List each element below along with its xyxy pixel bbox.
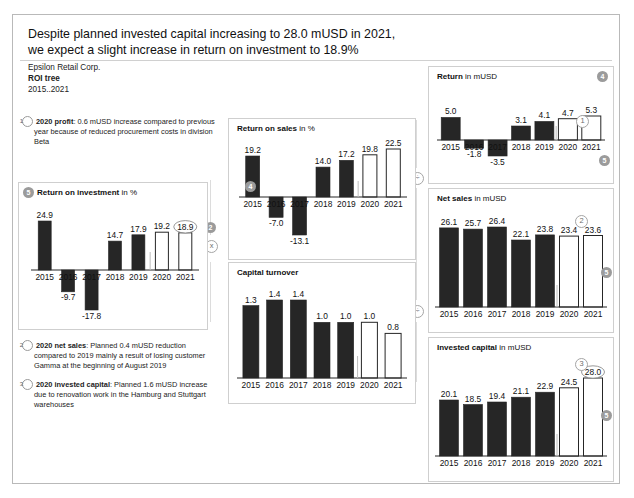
x-tick-2019: 2019 (337, 199, 356, 209)
value-label-2020: 4.7 (562, 108, 574, 118)
value-label-2018: 14.0 (315, 156, 332, 166)
bar-2020 (558, 119, 577, 140)
value-label-2018: 21.1 (513, 386, 530, 396)
value-label-2015: 5.0 (445, 106, 457, 116)
value-label-2019: 4.1 (539, 110, 551, 120)
x-tick-2021: 2021 (384, 199, 403, 209)
title-line-1: Despite planned invested capital increas… (28, 26, 528, 42)
chart-return-on-sales: Return on sales in % 19.2-7.0-13.114.017… (228, 118, 416, 260)
bar-2018 (512, 397, 531, 456)
marker-ref-net_sales: 5 (599, 155, 610, 166)
value-label-2016: -7.0 (269, 218, 284, 228)
bar-2019 (339, 160, 353, 197)
chart-return: Return in mUSD 4 5.0-1.8-3.53.14.14.75.3… (428, 66, 614, 184)
title-line-2: we expect a slight increase in return on… (28, 42, 528, 58)
value-label-2020: 23.4 (561, 225, 578, 235)
value-label-2021: 18.9 (177, 222, 194, 232)
x-tick-2019: 2019 (536, 309, 555, 319)
bar-2016 (267, 300, 283, 378)
x-tick-2020: 2020 (153, 272, 172, 282)
note-2-3-group: 22020 net sales: Planned 0.4 mUSD reduct… (22, 340, 220, 410)
x-tick-2016: 2016 (267, 199, 286, 209)
value-label-2016: 25.7 (465, 218, 482, 228)
x-tick-2017: 2017 (289, 380, 308, 390)
bar-2018 (314, 322, 330, 378)
value-label-2018: 1.0 (316, 311, 328, 321)
document-type: ROI tree (28, 73, 100, 84)
bar-2017 (488, 227, 507, 307)
bar-2015 (440, 228, 459, 307)
bar-chart-capital_turnover: 1.31.41.41.01.01.00.82015201620172018201… (229, 263, 415, 403)
bar-2018 (512, 240, 531, 307)
value-label-2016: 18.5 (465, 394, 482, 404)
chart-canvas-ct: 1.31.41.41.01.01.00.82015201620172018201… (229, 263, 415, 403)
x-tick-2016: 2016 (464, 309, 483, 319)
value-label-2020: 24.5 (561, 377, 578, 387)
bar-chart-net_sales: 26.125.726.422.123.823.423.6201520162017… (429, 189, 613, 332)
value-label-2019: 17.9 (130, 224, 147, 234)
subtitle-block: Epsilon Retail Corp. ROI tree 2015..2021 (28, 62, 100, 95)
x-tick-2016: 2016 (59, 272, 78, 282)
x-tick-2019: 2019 (129, 272, 148, 282)
marker-ref-net_sales_footnote: 2 (575, 215, 588, 228)
value-label-2021: 23.6 (585, 225, 602, 235)
x-tick-2017: 2017 (488, 142, 507, 152)
note-2-marker: 2 (22, 340, 33, 351)
value-label-2017: 26.4 (489, 216, 506, 226)
x-tick-2018: 2018 (512, 309, 531, 319)
x-tick-2016: 2016 (464, 458, 483, 468)
bar-2015 (441, 117, 460, 140)
value-label-2016: -9.7 (61, 292, 76, 302)
roi-tree-slide: Despite planned invested capital increas… (0, 0, 634, 498)
value-label-2018: 3.1 (515, 115, 527, 125)
bar-2020 (560, 236, 579, 307)
x-tick-2015: 2015 (35, 272, 54, 282)
chart-canvas-roi: 24.9-9.7-17.814.717.919.218.920152016201… (19, 183, 207, 329)
x-tick-2020: 2020 (360, 380, 379, 390)
value-label-2015: 19.2 (245, 145, 262, 155)
connector-sales-mid (416, 188, 417, 300)
x-tick-2018: 2018 (512, 458, 531, 468)
value-label-2020: 19.2 (154, 221, 171, 231)
x-tick-2019: 2019 (535, 142, 554, 152)
x-tick-2015: 2015 (440, 309, 459, 319)
value-label-2021: 28.0 (585, 367, 602, 377)
value-label-2019: 23.8 (537, 224, 554, 234)
bar-2016 (464, 405, 483, 457)
value-label-2017: 19.4 (489, 391, 506, 401)
bar-2015 (38, 221, 51, 270)
bar-2021 (385, 333, 401, 378)
x-tick-2020: 2020 (560, 458, 579, 468)
chart-canvas-ns: 26.125.726.422.123.823.423.6201520162017… (429, 189, 613, 332)
chart-invested-capital: Invested capital in mUSD 20.118.519.421.… (428, 337, 614, 482)
title-divider (20, 60, 612, 61)
bar-chart-return_on_investment: 24.9-9.7-17.814.717.919.218.920152016201… (19, 183, 207, 329)
x-tick-2021: 2021 (584, 309, 603, 319)
x-tick-2021: 2021 (384, 380, 403, 390)
note-1: 12020 profit: 0.6 mUSD increase compared… (22, 116, 220, 148)
bar-2020 (155, 232, 168, 270)
value-label-2019: 1.0 (340, 311, 352, 321)
bar-2020 (560, 388, 579, 456)
company-name: Epsilon Retail Corp. (28, 62, 100, 73)
x-tick-2017: 2017 (290, 199, 309, 209)
bar-2015 (243, 306, 259, 378)
x-tick-2015: 2015 (243, 199, 262, 209)
value-label-2017: -13.1 (290, 236, 309, 246)
x-tick-2020: 2020 (560, 309, 579, 319)
x-tick-2015: 2015 (440, 458, 459, 468)
x-tick-2018: 2018 (313, 380, 332, 390)
connector-turnover-bottom (416, 322, 417, 382)
bar-2021 (584, 236, 603, 308)
note-3-marker: 3 (22, 379, 33, 390)
bar-2018 (316, 167, 330, 197)
value-label-2020: 1.0 (364, 311, 376, 321)
value-label-2015: 24.9 (37, 210, 54, 220)
marker-ref-invested_capital_footnote: 3 (575, 358, 588, 371)
chart-canvas-ros: 19.2-7.0-13.114.017.219.822.520152016201… (229, 119, 415, 259)
chart-capital-turnover: Capital turnover 1.31.41.41.01.01.00.820… (228, 262, 416, 404)
value-label-2019: 22.9 (537, 381, 554, 391)
note-1-bold: 2020 profit (36, 117, 73, 126)
value-label-2015: 1.3 (245, 295, 257, 305)
value-label-2018: 14.7 (107, 230, 124, 240)
